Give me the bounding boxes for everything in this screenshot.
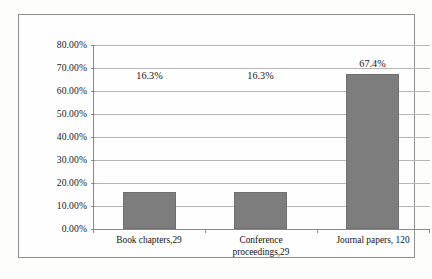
y-axis-label-40: 40.00% bbox=[31, 132, 87, 142]
y-axis-label-0: 0.00% bbox=[31, 224, 87, 234]
gridline-80 bbox=[93, 45, 430, 46]
bar-book-chapters bbox=[123, 192, 176, 230]
category-tick-1 bbox=[205, 229, 206, 233]
y-axis-label-70: 70.00% bbox=[31, 63, 87, 73]
data-label-book-chapters: 16.3% bbox=[123, 70, 176, 81]
value-axis-labels: 80.00% 70.00% 60.00% 50.00% 40.00% 30.00… bbox=[29, 45, 87, 229]
category-label-journal-papers: Journal papers, 120 bbox=[317, 235, 429, 247]
category-axis: Book chapters,29 Conference proceedings,… bbox=[93, 229, 430, 273]
bar-conference-proceedings bbox=[234, 192, 287, 230]
y-tick-mark-80 bbox=[91, 45, 95, 46]
y-axis-label-60: 60.00% bbox=[31, 86, 87, 96]
category-label-book-chapters: Book chapters,29 bbox=[93, 235, 205, 247]
y-axis-label-80: 80.00% bbox=[31, 40, 87, 50]
y-tick-mark-70 bbox=[91, 68, 95, 69]
y-axis-label-50: 50.00% bbox=[31, 109, 87, 119]
y-axis-label-20: 20.00% bbox=[31, 178, 87, 188]
y-tick-mark-20 bbox=[91, 183, 95, 184]
y-tick-mark-10 bbox=[91, 206, 95, 207]
bar-journal-papers bbox=[346, 74, 399, 229]
category-tick-2 bbox=[317, 229, 318, 233]
y-axis-label-30: 30.00% bbox=[31, 155, 87, 165]
category-tick-3 bbox=[429, 229, 430, 233]
data-label-journal-papers: 67.4% bbox=[346, 58, 399, 69]
category-tick-0 bbox=[93, 229, 94, 233]
plot-area: 16.3% 16.3% 67.4% bbox=[93, 45, 430, 229]
chart-frame: 16.3% 16.3% 67.4% 80.00% 70.00% 60.00% 5… bbox=[18, 14, 415, 258]
y-tick-mark-60 bbox=[91, 91, 95, 92]
y-tick-mark-40 bbox=[91, 137, 95, 138]
y-tick-mark-30 bbox=[91, 160, 95, 161]
y-tick-mark-50 bbox=[91, 114, 95, 115]
category-label-conference-proceedings: Conference proceedings,29 bbox=[205, 235, 317, 258]
bar-chart-figure: 16.3% 16.3% 67.4% 80.00% 70.00% 60.00% 5… bbox=[0, 0, 432, 279]
data-label-conference-proceedings: 16.3% bbox=[234, 70, 287, 81]
y-axis-label-10: 10.00% bbox=[31, 201, 87, 211]
